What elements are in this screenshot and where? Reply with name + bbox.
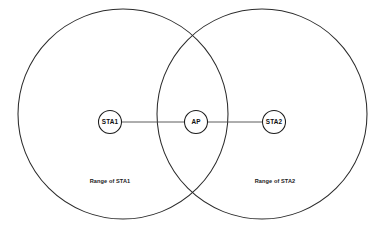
wlan-coverage-diagram: STA1 AP STA2 Range of STA1 Range of STA2 [0, 0, 384, 228]
range-caption-sta1: Range of STA1 [90, 178, 131, 184]
diagram-canvas: STA1 AP STA2 Range of STA1 Range of STA2 [0, 0, 384, 228]
range-caption-sta2: Range of STA2 [255, 178, 296, 184]
node-label-sta1: STA1 [102, 118, 119, 125]
node-label-sta2: STA2 [266, 118, 283, 125]
node-label-ap: AP [191, 118, 201, 125]
